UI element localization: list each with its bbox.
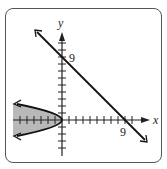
y-tick-label: 9 [69, 51, 75, 65]
coordinate-graph: y x 9 9 [0, 0, 167, 169]
y-axis-arrow-icon [59, 32, 65, 41]
y-axis-label: y [57, 16, 64, 30]
x-tick-label: 9 [120, 125, 126, 139]
x-axis-arrow-icon [141, 117, 150, 123]
x-axis-label: x [152, 113, 159, 127]
